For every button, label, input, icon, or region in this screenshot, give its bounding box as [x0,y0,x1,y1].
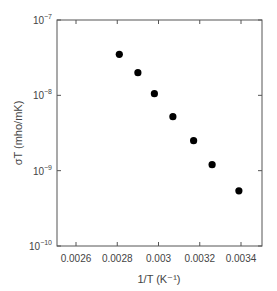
x-axis-label: 1/T (K⁻¹) [137,273,180,285]
data-points [116,51,243,195]
y-tick-label: 10−8 [33,88,52,101]
x-tick-label: 0.0034 [226,253,257,264]
y-axis-label: σT (mho/mK) [12,101,24,166]
x-tick-label: 0.0028 [102,253,133,264]
x-tick-label: 0.0032 [184,253,215,264]
plot-frame [57,20,262,246]
y-tick-label: 10−9 [33,164,52,177]
y-tick-label: 10−10 [29,239,52,252]
data-point [190,137,197,144]
x-tick-label: 0.0026 [61,253,92,264]
data-point [235,187,242,194]
x-tick-label: 0.003 [146,253,171,264]
y-tick-label: 10−7 [33,13,52,26]
data-point [169,113,176,120]
chart-canvas: 0.00260.00280.0030.00320.003410−710−810−… [0,0,277,291]
scatter-chart: 0.00260.00280.0030.00320.003410−710−810−… [0,0,277,291]
data-point [151,90,158,97]
plot-axes: 0.00260.00280.0030.00320.003410−710−810−… [29,13,262,264]
data-point [134,69,141,76]
data-point [209,161,216,168]
data-point [116,51,123,58]
